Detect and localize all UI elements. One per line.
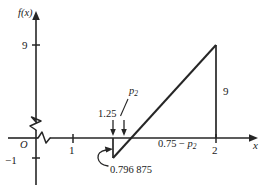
- annotation-p2-subscript: 2: [134, 89, 138, 98]
- annotation-1-25: 1.25: [98, 109, 116, 120]
- y-axis-label: f(x): [18, 8, 33, 19]
- x-axis-break-icon: [38, 132, 50, 143]
- origin-label: O: [20, 140, 28, 151]
- annotation-segment-base: 0.75 −: [158, 138, 188, 149]
- annotation-p2: p2: [129, 86, 138, 98]
- x-tick-label-1: 1: [69, 145, 75, 156]
- annotation-rise-9: 9: [223, 86, 229, 97]
- annotation-segment-subscript: 2: [193, 142, 197, 151]
- arrow-p2-head: [121, 129, 127, 136]
- annotation-segment-length: 0.75 − p2: [158, 139, 197, 151]
- p2-leader-line: [121, 99, 129, 116]
- math-figure: f(x) 9 O −1 1 2 1.25 p2 0.75 − p2 9 0.79…: [0, 0, 269, 185]
- y-axis-arrowhead: [32, 11, 40, 20]
- arrow-125-head: [110, 129, 116, 136]
- x-axis-label: x: [253, 140, 258, 151]
- y-tick-label-neg1: −1: [5, 155, 17, 166]
- x-tick-label-2: 2: [212, 145, 218, 156]
- y-tick-label-9: 9: [22, 40, 28, 51]
- annotation-callout-value: 0.796 875: [110, 165, 152, 176]
- y-axis-break-icon: [30, 117, 41, 130]
- callout-arrowhead: [105, 147, 113, 153]
